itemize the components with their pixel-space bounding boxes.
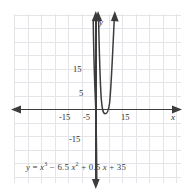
equation-operator-1: − xyxy=(50,162,55,172)
equation-operator-3: + xyxy=(109,162,114,172)
equation-term2-coefficient: 6.5 xyxy=(57,162,69,172)
equation-term3-base: x xyxy=(103,162,107,172)
equation-constant: 35 xyxy=(117,162,126,172)
x-axis-label: x xyxy=(171,113,175,122)
y-axis-down-arrow xyxy=(92,179,100,189)
y-tick-label-neg15: -15 xyxy=(69,135,80,144)
x-tick-label-neg15: -15 xyxy=(59,113,70,122)
grid-lines xyxy=(15,14,182,183)
equation-lhs: y xyxy=(26,162,30,172)
equation-equals: = xyxy=(33,162,38,172)
equation-term2-exponent: 2 xyxy=(76,161,79,167)
y-tick-label-5: 5 xyxy=(79,89,83,98)
equation-term1-exponent: 3 xyxy=(44,161,47,167)
x-tick-label-neg5: -5 xyxy=(83,113,90,122)
equation-caption: y = x3 − 6.5 x2 + 0.5 x + 35 xyxy=(26,161,126,172)
x-axis-left-arrow xyxy=(11,106,21,114)
x-tick-label-15: 15 xyxy=(121,113,130,122)
curve-right-branch-arrow xyxy=(111,11,119,21)
equation-operator-2: + xyxy=(81,162,86,172)
y-tick-label-15: 15 xyxy=(73,65,82,74)
y-axis-label: y xyxy=(99,18,103,27)
function-graph-figure: -15 -5 15 15 5 -15 x y y = x3 − 6.5 x2 +… xyxy=(0,0,192,194)
equation-term3-coefficient: 0.5 xyxy=(89,162,101,172)
